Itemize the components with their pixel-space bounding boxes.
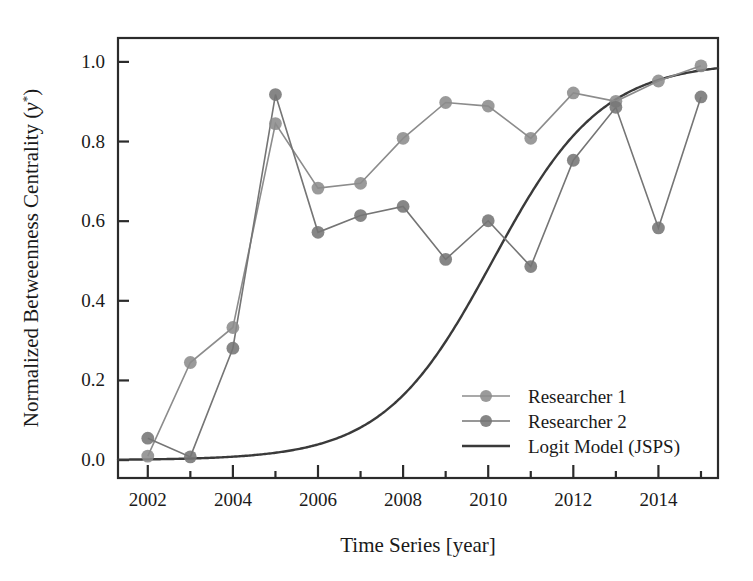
data-point-s2-2003 <box>184 451 197 464</box>
y-axis-title-main: Normalized Betweenness Centrality ( <box>19 112 43 427</box>
data-point-s1-2008 <box>397 132 410 145</box>
data-point-s1-2009 <box>439 96 452 109</box>
svg-text:Normalized Betweenness Central: Normalized Betweenness Centrality (y*) <box>19 89 44 427</box>
y-axis-title: Normalized Betweenness Centrality (y*) <box>19 89 44 427</box>
y-tick-label-0.4: 0.4 <box>81 290 105 311</box>
x-tick-label-2014: 2014 <box>639 489 678 510</box>
data-point-s1-2003 <box>184 356 197 369</box>
data-point-s2-2008 <box>397 200 410 213</box>
data-point-s1-2010 <box>482 100 495 113</box>
data-point-s2-2012 <box>567 154 580 167</box>
x-tick-label-2010: 2010 <box>469 489 507 510</box>
x-axis-title: Time Series [year] <box>340 533 496 557</box>
data-point-s2-2007 <box>354 209 367 222</box>
data-point-s2-2011 <box>524 260 537 273</box>
data-point-s1-2015 <box>695 59 708 72</box>
data-point-s1-2011 <box>524 132 537 145</box>
data-point-s1-2005 <box>269 117 282 130</box>
betweenness-centrality-line-chart: 0.00.20.40.60.81.0 200220042006200820102… <box>0 0 753 581</box>
data-point-s1-2012 <box>567 87 580 100</box>
data-point-s2-2015 <box>695 91 708 104</box>
legend-swatch-marker-1 <box>480 390 492 402</box>
data-point-s2-2010 <box>482 214 495 227</box>
data-point-s1-2014 <box>652 75 665 88</box>
y-tick-label-0.0: 0.0 <box>81 449 105 470</box>
legend-label-1: Researcher 1 <box>528 386 627 407</box>
data-point-s1-2002 <box>141 450 154 463</box>
y-tick-label-0.8: 0.8 <box>81 131 105 152</box>
legend-label-3: Logit Model (JSPS) <box>528 436 680 458</box>
data-point-s2-2014 <box>652 222 665 235</box>
x-tick-label-2002: 2002 <box>129 489 167 510</box>
data-point-s2-2002 <box>141 432 154 445</box>
y-axis-title-variable: y <box>19 102 43 114</box>
legend-swatch-marker-2 <box>480 415 492 427</box>
data-point-s1-2007 <box>354 177 367 190</box>
data-point-s2-2005 <box>269 88 282 101</box>
chart-figure: 0.00.20.40.60.81.0 200220042006200820102… <box>0 0 753 581</box>
x-tick-label-2008: 2008 <box>384 489 422 510</box>
data-point-s2-2013 <box>609 101 622 114</box>
y-tick-label-1.0: 1.0 <box>81 51 105 72</box>
legend-label-2: Researcher 2 <box>528 411 627 432</box>
data-point-s1-2006 <box>312 182 325 195</box>
x-tick-label-2012: 2012 <box>554 489 592 510</box>
y-tick-label-0.6: 0.6 <box>81 210 105 231</box>
x-tick-label-2004: 2004 <box>214 489 253 510</box>
data-point-s2-2004 <box>226 342 239 355</box>
x-tick-label-2006: 2006 <box>299 489 337 510</box>
data-point-s2-2009 <box>439 253 452 266</box>
data-point-s2-2006 <box>312 226 325 239</box>
y-axis-title-tail: ) <box>19 89 43 96</box>
y-tick-label-0.2: 0.2 <box>81 369 105 390</box>
data-point-s1-2004 <box>226 321 239 334</box>
